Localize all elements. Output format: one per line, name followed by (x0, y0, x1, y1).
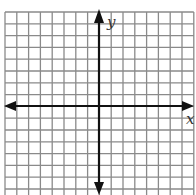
x-axis-left-arrow-icon (4, 101, 16, 111)
y-axis-up-arrow-icon (94, 9, 104, 23)
x-axis-label: x (186, 110, 195, 128)
y-axis (94, 9, 104, 195)
y-axis-label: y (106, 13, 116, 31)
coordinate-plane: y x (0, 0, 196, 195)
